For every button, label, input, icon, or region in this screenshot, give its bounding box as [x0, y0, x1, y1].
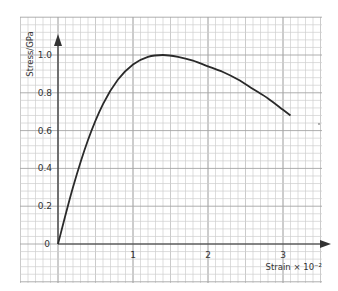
- graph-paper-grid: [20, 17, 322, 283]
- x-tick-label: 2: [205, 250, 211, 260]
- y-tick-label: 0.2: [38, 201, 52, 211]
- x-axis-arrow-icon: [320, 240, 331, 248]
- y-tick-label: 0.4: [38, 163, 53, 173]
- y-axis-label: Stress/GPa: [25, 31, 35, 77]
- x-tick-label: 1: [130, 250, 136, 260]
- stress-strain-chart: 00.20.40.60.81.0123Strain × 10⁻²Stress/G…: [0, 0, 338, 291]
- x-tick-label: 3: [280, 250, 286, 260]
- y-tick-label: 1.0: [38, 50, 53, 60]
- y-tick-label: 0: [44, 239, 50, 249]
- y-tick-label: 0.6: [38, 126, 53, 136]
- stray-dot: [318, 123, 320, 125]
- x-axis-label: Strain × 10⁻²: [266, 262, 322, 272]
- y-tick-label: 0.8: [38, 88, 53, 98]
- stress-strain-curve: [58, 55, 291, 244]
